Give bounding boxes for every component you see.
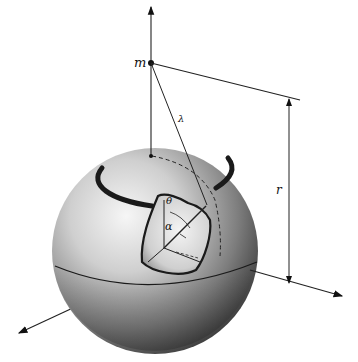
lambda-label: λ: [177, 113, 184, 124]
mass-label: m: [134, 55, 146, 70]
sphere-top-point: [149, 154, 153, 158]
alpha-label: α: [165, 220, 173, 233]
theta-label: θ: [166, 195, 172, 206]
x-axis-right: [250, 270, 342, 296]
sphere-diagram: m λ r θ α: [0, 0, 358, 362]
reference-line-top: [151, 63, 300, 100]
r-label: r: [276, 183, 283, 197]
